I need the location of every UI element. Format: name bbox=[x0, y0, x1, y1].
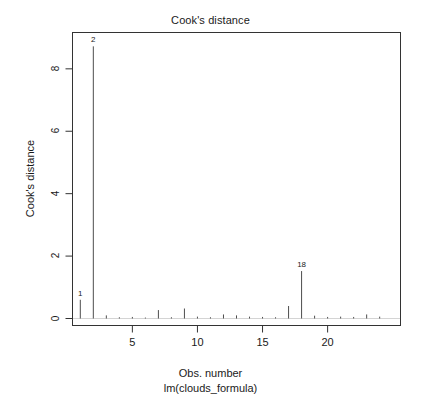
x-axis-label: Obs. number bbox=[0, 366, 421, 381]
point-label: 1 bbox=[68, 289, 92, 298]
x-axis-tick-label: 20 bbox=[316, 336, 340, 348]
y-axis-tick-label: 8 bbox=[49, 58, 60, 78]
point-label: 18 bbox=[290, 260, 314, 269]
plot-box bbox=[73, 33, 401, 326]
y-axis-tick-label: 6 bbox=[49, 121, 60, 141]
y-axis-tick-label: 0 bbox=[49, 308, 60, 328]
model-formula-label: lm(clouds_formula) bbox=[0, 381, 421, 396]
x-axis-tick-label: 15 bbox=[251, 336, 275, 348]
x-axis-tick-label: 10 bbox=[185, 336, 209, 348]
x-axis-tick-label: 5 bbox=[120, 336, 144, 348]
cooks-distance-plot: Cook's distance Cook's distance Obs. num… bbox=[0, 0, 421, 418]
plot-canvas bbox=[0, 0, 421, 418]
chart-title: Cook's distance bbox=[0, 14, 421, 26]
y-axis-label: Cook's distance bbox=[24, 32, 36, 325]
y-axis-tick-label: 2 bbox=[49, 246, 60, 266]
y-axis-tick-label: 4 bbox=[49, 183, 60, 203]
x-axis-label-block: Obs. number lm(clouds_formula) bbox=[0, 366, 421, 396]
point-label: 2 bbox=[81, 35, 105, 44]
